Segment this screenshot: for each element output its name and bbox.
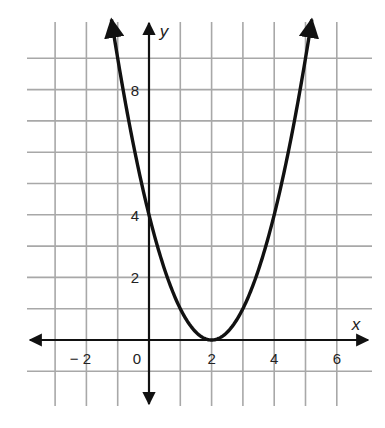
x-axis-label: x — [351, 315, 361, 334]
x-tick-label: − 2 — [70, 350, 91, 367]
x-tick-label: 0 — [133, 350, 141, 367]
y-tick-label: 4 — [131, 207, 139, 224]
y-tick-label: 8 — [131, 82, 139, 99]
parabola-graph: − 20246248xy — [0, 0, 385, 428]
y-tick-label: 2 — [131, 269, 139, 286]
axes — [30, 23, 368, 404]
y-axis-label: y — [159, 22, 170, 41]
x-tick-label: 6 — [333, 350, 341, 367]
x-tick-label: 2 — [207, 350, 215, 367]
x-tick-label: 4 — [270, 350, 278, 367]
grid-lines — [27, 22, 372, 406]
tick-labels: − 20246248xy — [70, 22, 361, 367]
